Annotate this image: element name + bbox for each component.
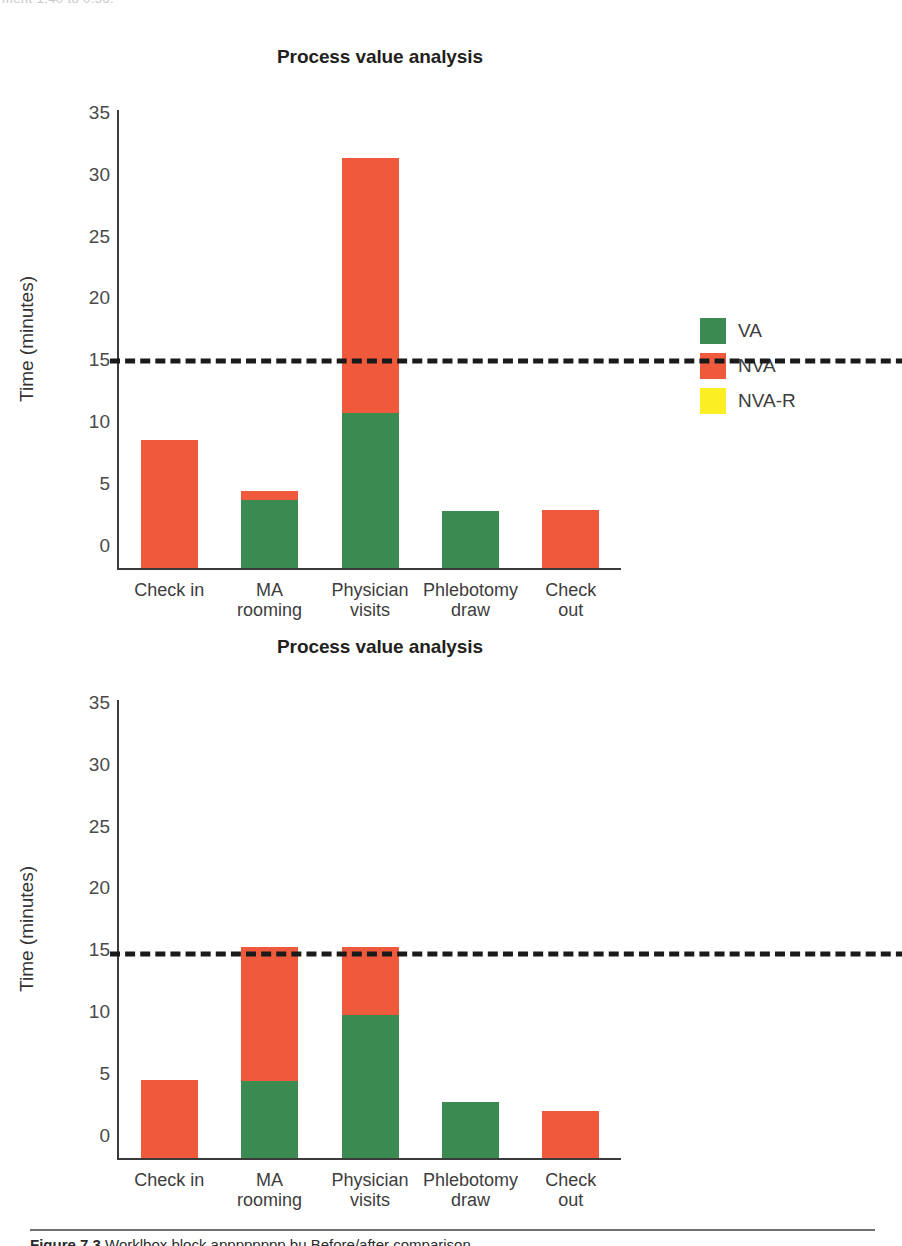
legend-item-nva[interactable]: NVA [700,353,796,379]
y-tick-10: 10 [89,411,110,433]
bar-slot [420,700,520,1158]
y-tick-5: 5 [99,1063,110,1085]
bar-segment-va [442,511,499,568]
y-tick-35: 35 [89,692,110,714]
legend: VANVANVA-R [700,318,796,423]
target-threshold-line [110,359,902,364]
y-tick-5: 5 [99,473,110,495]
x-tick-label: Phlebotomy draw [420,1170,520,1210]
legend-label: VA [738,320,762,342]
y-tick-15: 15 [89,939,110,961]
bar-segment-va [241,1081,298,1158]
legend-swatch-icon [700,318,726,344]
stacked-bar[interactable] [442,1102,499,1158]
figure-caption: Figure 7.3 Worklbox block apppppppp bu B… [30,1236,875,1246]
plot-inner: Time (minutes) 35302520151050 Check inMA… [119,110,621,568]
stacked-bar[interactable] [241,491,298,568]
bar-segment-nva [141,1080,198,1158]
y-tick-20: 20 [89,287,110,309]
bar-slot [320,110,420,568]
legend-item-va[interactable]: VA [700,318,796,344]
caption-divider [30,1229,875,1231]
x-tick-label: Physician visits [320,1170,420,1210]
y-tick-30: 30 [89,754,110,776]
bar-group [119,700,621,1158]
y-tick-35: 35 [89,102,110,124]
x-tick-label: MA rooming [219,1170,319,1210]
x-tick-label: Phlebotomy draw [420,580,520,620]
stacked-bar[interactable] [342,947,399,1158]
cropped-header-text: ment 1.40 to 0.56. [0,0,902,10]
bar-slot [219,700,319,1158]
x-tick-label: Check out [521,1170,621,1210]
bar-segment-nva [141,440,198,568]
chart-after: Process value analysis Time (minutes) 35… [0,625,902,1205]
bar-slot [119,700,219,1158]
cropped-header-label: ment 1.40 to 0.56. [2,0,902,6]
plot-area: Time (minutes) 35302520151050 Check inMA… [117,110,621,570]
bar-slot [119,110,219,568]
x-tick-label: Check in [119,1170,219,1210]
plot-inner: Time (minutes) 35302520151050 Check inMA… [119,700,621,1158]
bar-group [119,110,621,568]
bar-segment-va [241,500,298,568]
plot-area: Time (minutes) 35302520151050 Check inMA… [117,700,621,1160]
bar-segment-va [342,413,399,568]
bar-slot [420,110,520,568]
chart-title: Process value analysis [0,636,760,658]
y-tick-25: 25 [89,816,110,838]
bar-segment-nva [342,158,399,413]
stacked-bar[interactable] [241,947,298,1158]
bar-slot [320,700,420,1158]
stacked-bar[interactable] [542,1111,599,1158]
chart-title: Process value analysis [0,46,760,68]
x-tick-label: MA rooming [219,580,319,620]
legend-swatch-icon [700,353,726,379]
stacked-bar[interactable] [141,1080,198,1158]
x-axis-labels: Check inMA roomingPhysician visitsPhlebo… [119,1170,621,1210]
legend-swatch-icon [700,388,726,414]
y-tick-25: 25 [89,226,110,248]
y-tick-0: 0 [99,1125,110,1147]
y-tick-20: 20 [89,877,110,899]
x-tick-label: Physician visits [320,580,420,620]
bar-segment-va [342,1015,399,1158]
stacked-bar[interactable] [542,510,599,568]
caption-number: Figure 7.3 [30,1236,101,1246]
x-tick-label: Check out [521,580,621,620]
bar-segment-nva [342,947,399,1015]
x-axis-labels: Check inMA roomingPhysician visitsPhlebo… [119,580,621,620]
bar-segment-nva [241,947,298,1081]
bar-slot [219,110,319,568]
legend-item-nva-r[interactable]: NVA-R [700,388,796,414]
bar-segment-nva [542,1111,599,1158]
bar-slot [521,110,621,568]
legend-label: NVA-R [738,390,796,412]
y-axis-label: Time (minutes) [16,866,38,992]
stacked-bar[interactable] [442,511,499,568]
figure-page: ment 1.40 to 0.56. Process value analysi… [0,0,902,1246]
chart-before: Process value analysis Time (minutes) 35… [0,30,902,640]
bar-slot [521,700,621,1158]
bar-segment-nva [542,510,599,568]
stacked-bar[interactable] [141,440,198,568]
y-tick-15: 15 [89,349,110,371]
y-tick-0: 0 [99,535,110,557]
caption-body: Worklbox block apppppppp bu Before/after… [105,1236,471,1246]
y-tick-30: 30 [89,164,110,186]
y-tick-10: 10 [89,1001,110,1023]
bar-segment-nva [241,491,298,500]
x-tick-label: Check in [119,580,219,620]
target-threshold-line [110,951,902,956]
bar-segment-va [442,1102,499,1158]
y-axis-label: Time (minutes) [16,276,38,402]
